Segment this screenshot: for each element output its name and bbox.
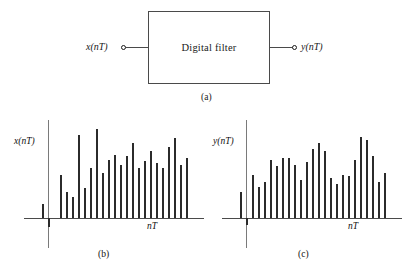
stem-bar <box>366 140 368 218</box>
stem-bar <box>168 147 170 218</box>
digital-filter-box-label: Digital filter <box>149 12 269 83</box>
block-diagram-panel: x(nT) Digital filter y(nT) (a) <box>0 0 414 110</box>
stem-bar <box>348 176 350 218</box>
stem-bar <box>300 180 302 218</box>
stem-bar <box>96 129 98 218</box>
caption-a: (a) <box>201 92 212 102</box>
stem-bar <box>378 182 380 218</box>
stem-bar <box>78 135 80 218</box>
stem-bar <box>102 173 104 218</box>
stem-bar <box>114 155 116 218</box>
output-wire <box>270 47 294 48</box>
stem-series-b <box>14 118 206 272</box>
stem-bar <box>66 192 68 218</box>
stem-bar <box>42 204 44 218</box>
stem-bar <box>156 163 158 218</box>
stem-bar <box>270 160 272 218</box>
stem-bar <box>384 173 386 218</box>
stem-bar <box>306 162 308 218</box>
stem-bar <box>276 166 278 218</box>
input-wire <box>125 47 149 48</box>
stem-bar <box>240 192 242 218</box>
output-terminal-icon <box>292 45 297 50</box>
input-signal-label: x(nT) <box>86 41 108 52</box>
stem-bar <box>246 218 248 225</box>
x-axis-label-c: nT <box>348 221 358 231</box>
caption-b: (b) <box>98 249 109 259</box>
x-axis-label-b: nT <box>147 221 157 231</box>
stem-bar <box>126 156 128 218</box>
stem-bar <box>60 175 62 218</box>
stem-bar <box>150 151 152 218</box>
output-signal-label: y(nT) <box>301 41 323 52</box>
stem-bar <box>84 188 86 218</box>
stem-bar <box>258 187 260 218</box>
stem-bar <box>90 168 92 218</box>
stem-bar <box>324 151 326 218</box>
stem-bar <box>162 168 164 218</box>
stem-plot-output: y(nT) nT (c) <box>212 118 404 272</box>
stem-bar <box>138 168 140 218</box>
stem-bar <box>318 143 320 218</box>
stem-bar <box>120 165 122 218</box>
stem-bar <box>180 165 182 218</box>
caption-c: (c) <box>298 249 309 259</box>
digital-filter-box: Digital filter <box>148 11 270 84</box>
stem-bar <box>252 175 254 218</box>
stem-bar <box>282 158 284 218</box>
stem-bar <box>360 137 362 218</box>
stem-bar <box>174 138 176 218</box>
stem-bar <box>72 197 74 218</box>
stem-bar <box>144 161 146 218</box>
output-signal-label-text: y(nT) <box>301 41 323 52</box>
stem-bar <box>294 165 296 218</box>
stem-bar <box>312 149 314 218</box>
stem-bar <box>330 178 332 218</box>
stem-bar <box>48 218 50 227</box>
stem-bar <box>354 160 356 218</box>
stem-plot-input: x(nT) nT (b) <box>14 118 206 272</box>
stem-bar <box>342 175 344 218</box>
stem-bar <box>372 156 374 218</box>
stem-bar <box>108 160 110 218</box>
figure-container: x(nT) Digital filter y(nT) (a) x(nT) nT … <box>0 0 414 272</box>
stem-bar <box>132 143 134 218</box>
stem-bar <box>186 158 188 218</box>
stem-bar <box>288 158 290 218</box>
stem-bar <box>264 182 266 218</box>
stem-bar <box>336 184 338 218</box>
input-signal-label-text: x(nT) <box>86 41 108 52</box>
